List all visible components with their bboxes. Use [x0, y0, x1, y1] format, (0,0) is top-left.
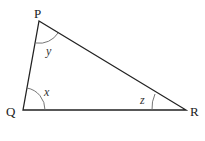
angle-arc-r [152, 94, 155, 110]
angle-arc-q [27, 88, 45, 110]
angle-label-x: x [43, 85, 50, 99]
vertex-label-p: P [34, 6, 41, 21]
angle-label-y: y [45, 44, 52, 58]
angle-label-z: z [139, 93, 145, 107]
triangle-diagram: P Q R y x z [0, 0, 205, 141]
angle-arc-p [36, 33, 58, 43]
vertex-label-q: Q [6, 104, 16, 119]
vertex-label-r: R [190, 104, 199, 119]
